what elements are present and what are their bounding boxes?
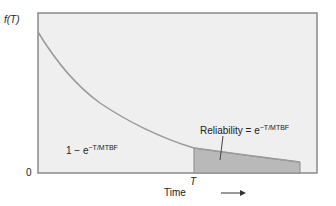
t-marker-label: T [190,176,196,187]
reliability-diagram [0,0,336,206]
unreliability-label: 1 − e−T/MTBF [66,144,118,156]
zero-label: 0 [26,167,32,178]
reliability-label: Reliability = e−T/MTBF [200,124,289,136]
y-axis-label: f(T) [4,14,20,25]
x-axis-label: Time [164,187,186,198]
time-arrow-head [240,190,246,196]
